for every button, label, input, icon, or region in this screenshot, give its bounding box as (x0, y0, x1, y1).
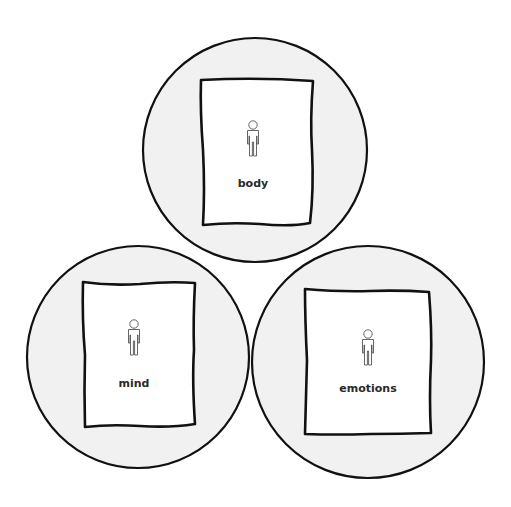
three-circle-diagram: body mind emotions (0, 0, 511, 507)
emotions-node: emotions (252, 246, 484, 478)
body-label: body (238, 177, 268, 190)
emotions-label: emotions (339, 382, 397, 395)
mind-label: mind (119, 377, 150, 390)
mind-node: mind (27, 246, 249, 468)
body-node: body (143, 38, 367, 262)
mind-frame (83, 282, 195, 427)
emotions-frame (305, 289, 431, 435)
